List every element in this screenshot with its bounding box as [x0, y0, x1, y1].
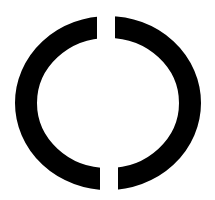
- split-ring-figure: [0, 0, 215, 200]
- ring-arc: [26, 27, 190, 179]
